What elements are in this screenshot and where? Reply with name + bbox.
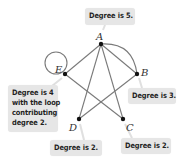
edge-a-c xyxy=(101,44,123,119)
callout-text-d: Degree is 2. xyxy=(54,143,98,152)
callout-tail-b xyxy=(139,78,142,88)
callout-degree-b: Degree is 3. xyxy=(128,88,176,104)
vertex-label-d: D xyxy=(68,122,77,133)
callout-text-e-line-1: Degree is 4 xyxy=(12,88,54,98)
vertex-e xyxy=(63,72,67,76)
edge-a-d xyxy=(79,44,101,119)
vertex-label-c: C xyxy=(126,122,134,133)
callout-text-e-line-3: contributing xyxy=(12,108,54,118)
callout-degree-a: Degree is 5. xyxy=(85,8,135,25)
vertex-label-e: E xyxy=(54,64,63,75)
vertex-a xyxy=(99,42,103,46)
callout-text-e-line-2: with the loop xyxy=(12,98,54,108)
callout-text-a: Degree is 5. xyxy=(89,11,133,20)
callout-degree-d: Degree is 2. xyxy=(50,140,102,156)
callout-degree-c: Degree is 2. xyxy=(121,138,171,154)
callout-text-b: Degree is 3. xyxy=(132,91,176,100)
callout-degree-e: Degree is 4 with the loop contributing d… xyxy=(8,85,58,132)
callout-tail-d xyxy=(80,124,84,140)
vertex-d xyxy=(77,117,81,121)
edge-a-e xyxy=(65,44,101,74)
vertex-label-a: A xyxy=(95,31,103,42)
vertex-b xyxy=(135,72,139,76)
callout-tail-a xyxy=(103,25,105,30)
vertex-c xyxy=(121,117,125,121)
edge-e-c xyxy=(65,74,123,119)
vertex-label-b: B xyxy=(140,67,148,78)
callout-text-e-line-4: degree 2. xyxy=(12,118,54,128)
callout-text-c: Degree is 2. xyxy=(125,141,169,150)
edge-a-b xyxy=(101,44,137,74)
